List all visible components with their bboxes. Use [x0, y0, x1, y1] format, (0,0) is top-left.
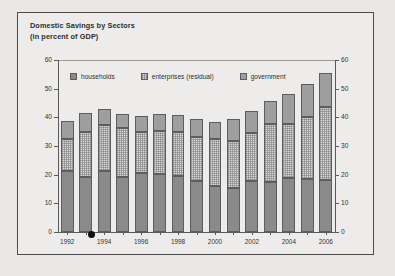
chart-frame: Domestic Savings by Sectors (in percent …: [17, 12, 374, 255]
y-tick-r: [335, 146, 339, 147]
bar-segment-government: [98, 109, 111, 124]
bar-segment-enterprises: [282, 124, 295, 177]
y-tick-r: [335, 117, 339, 118]
bar-segment-enterprises: [98, 125, 111, 171]
bar-1993: [79, 113, 92, 232]
bar-segment-households: [227, 188, 240, 232]
x-tick-label: 1996: [126, 238, 156, 245]
x-tick: [307, 232, 308, 235]
bar-segment-government: [153, 114, 166, 131]
bar-2003: [264, 101, 277, 232]
y-tick-label: 40: [341, 113, 363, 120]
bar-segment-government: [227, 119, 240, 141]
bar-1999: [190, 119, 203, 232]
bar-segment-enterprises: [61, 139, 74, 171]
y-tick-label: 10: [30, 199, 52, 206]
y-tick-label: 20: [341, 171, 363, 178]
y-tick-r: [335, 89, 339, 90]
x-tick: [233, 232, 234, 235]
y-tick-r: [335, 232, 339, 233]
y-tick-l: [54, 117, 58, 118]
y-tick-label: 50: [341, 85, 363, 92]
x-tick: [289, 232, 290, 235]
bar-1998: [172, 115, 185, 232]
x-tick-label: 2006: [311, 238, 341, 245]
black-dot-artifact: [88, 231, 95, 238]
x-tick-label: 2000: [200, 238, 230, 245]
bar-segment-households: [319, 180, 332, 232]
axis-top: [58, 60, 336, 61]
x-tick-label: 2004: [274, 238, 304, 245]
bar-segment-government: [264, 101, 277, 124]
y-tick-l: [54, 89, 58, 90]
bar-segment-households: [79, 177, 92, 232]
y-tick-l: [54, 146, 58, 147]
bar-2005: [301, 84, 314, 232]
y-tick-label: 30: [30, 142, 52, 149]
x-tick: [252, 232, 253, 235]
bar-1997: [153, 114, 166, 232]
bar-segment-enterprises: [190, 137, 203, 181]
bar-2001: [227, 119, 240, 232]
y-tick-label: 0: [30, 228, 52, 235]
x-tick: [326, 232, 327, 235]
bar-segment-government: [319, 73, 332, 107]
bar-segment-enterprises: [301, 117, 314, 179]
bar-1996: [135, 116, 148, 232]
x-tick: [270, 232, 271, 235]
plot-area: 00101020203030404050506060 1992199419961…: [58, 60, 335, 232]
x-tick: [86, 232, 87, 235]
bar-segment-households: [245, 181, 258, 232]
bar-segment-households: [61, 171, 74, 232]
x-tick-label: 1992: [52, 238, 82, 245]
chart-subtitle: (in percent of GDP): [30, 32, 135, 43]
y-tick-r: [335, 60, 339, 61]
bar-segment-households: [301, 179, 314, 232]
bar-segment-enterprises: [116, 128, 129, 177]
y-tick-label: 40: [30, 113, 52, 120]
bar-segment-enterprises: [245, 133, 258, 181]
bar-2006: [319, 73, 332, 232]
y-tick-label: 50: [30, 85, 52, 92]
x-tick: [141, 232, 142, 235]
bar-1992: [61, 121, 74, 232]
x-tick: [160, 232, 161, 235]
x-tick-label: 1994: [89, 238, 119, 245]
bar-segment-enterprises: [319, 107, 332, 180]
bar-segment-households: [153, 174, 166, 232]
y-tick-r: [335, 203, 339, 204]
x-tick: [178, 232, 179, 235]
x-tick: [123, 232, 124, 235]
bar-segment-government: [135, 116, 148, 132]
bar-segment-enterprises: [135, 132, 148, 173]
x-tick-label: 2002: [237, 238, 267, 245]
bar-1994: [98, 109, 111, 232]
bar-segment-government: [61, 121, 74, 139]
bar-segment-government: [172, 115, 185, 132]
bar-segment-households: [264, 182, 277, 232]
bar-segment-enterprises: [227, 141, 240, 188]
bar-segment-enterprises: [209, 139, 222, 186]
page-title: Domestic Savings by Sectors: [30, 21, 135, 32]
bar-segment-households: [282, 178, 295, 232]
bar-2002: [245, 111, 258, 232]
axis-left: [58, 60, 59, 232]
y-tick-label: 20: [30, 171, 52, 178]
bar-1995: [116, 114, 129, 232]
bar-2004: [282, 94, 295, 232]
bar-segment-households: [116, 177, 129, 232]
bar-segment-households: [135, 173, 148, 232]
bar-2000: [209, 122, 222, 232]
bar-segment-households: [209, 186, 222, 232]
y-tick-label: 60: [341, 56, 363, 63]
bar-segment-enterprises: [172, 132, 185, 176]
bar-segment-enterprises: [264, 124, 277, 182]
x-tick: [67, 232, 68, 235]
y-tick-label: 60: [30, 56, 52, 63]
bar-segment-households: [190, 181, 203, 232]
y-tick-l: [54, 203, 58, 204]
y-tick-label: 0: [341, 228, 363, 235]
chart-title-block: Domestic Savings by Sectors (in percent …: [30, 21, 135, 42]
y-tick-label: 30: [341, 142, 363, 149]
y-tick-r: [335, 175, 339, 176]
